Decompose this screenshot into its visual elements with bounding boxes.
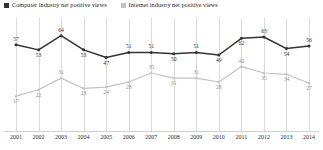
data-point-label: 17 bbox=[13, 99, 19, 105]
data-point bbox=[285, 73, 287, 75]
x-axis-tick-label: 2001 bbox=[10, 134, 22, 140]
data-point-label: 63 bbox=[261, 29, 267, 35]
data-point bbox=[150, 72, 152, 74]
series-line bbox=[16, 36, 309, 58]
data-point-label: 50 bbox=[171, 57, 177, 63]
data-point-label: 31 bbox=[58, 70, 64, 76]
x-axis-ticks: 2001200220032004200520062007200820092010… bbox=[4, 134, 319, 146]
data-point-label: 49 bbox=[216, 58, 222, 64]
data-point-label: 62 bbox=[239, 41, 245, 47]
x-axis-tick-label: 2002 bbox=[33, 134, 45, 140]
data-point bbox=[37, 89, 39, 91]
x-axis-tick-label: 2004 bbox=[78, 134, 90, 140]
x-axis-tick-label: 2003 bbox=[55, 134, 67, 140]
x-axis-tick-label: 2014 bbox=[303, 134, 315, 140]
data-point-label: 47 bbox=[103, 61, 109, 67]
legend-swatch-icon bbox=[121, 3, 126, 8]
chart-container: Computer industry net positive views Int… bbox=[0, 0, 323, 150]
data-point-label: 34 bbox=[284, 77, 290, 83]
x-axis-tick-label: 2008 bbox=[168, 134, 180, 140]
data-point bbox=[262, 36, 265, 39]
x-axis-tick-label: 2012 bbox=[258, 134, 270, 140]
data-point-label: 35 bbox=[261, 76, 267, 82]
legend-swatch-icon bbox=[4, 3, 9, 8]
x-axis-tick-label: 2010 bbox=[213, 134, 225, 140]
data-point-label: 64 bbox=[58, 28, 64, 34]
data-point bbox=[263, 72, 265, 74]
data-point-label: 31 bbox=[194, 70, 200, 76]
plot-area: 5753645347515150514962635456172231232428… bbox=[4, 18, 319, 132]
x-axis-tick-label: 2013 bbox=[280, 134, 292, 140]
data-point bbox=[240, 65, 242, 67]
data-point-label: 28 bbox=[126, 85, 132, 91]
data-point bbox=[127, 81, 129, 83]
data-point bbox=[150, 51, 153, 54]
x-axis-tick-label: 2007 bbox=[145, 134, 157, 140]
x-axis-tick-label: 2009 bbox=[190, 134, 202, 140]
data-point-label: 54 bbox=[284, 52, 290, 58]
data-point-label: 53 bbox=[36, 53, 42, 59]
chart-legend: Computer industry net positive views Int… bbox=[4, 2, 218, 8]
legend-label-computer: Computer industry net positive views bbox=[12, 2, 107, 8]
data-point bbox=[127, 51, 130, 54]
legend-label-internet: Internet industry net positive views bbox=[129, 2, 218, 8]
data-point bbox=[308, 45, 311, 48]
data-point bbox=[218, 81, 220, 83]
data-point-label: 57 bbox=[13, 37, 19, 43]
data-point-label: 28 bbox=[216, 85, 222, 91]
data-point bbox=[15, 43, 18, 46]
x-axis-tick-label: 2005 bbox=[100, 134, 112, 140]
data-point-label: 31 bbox=[171, 81, 177, 87]
data-point-label: 56 bbox=[306, 38, 312, 44]
legend-item-computer: Computer industry net positive views bbox=[4, 2, 107, 8]
x-axis-tick-label: 2011 bbox=[235, 134, 247, 140]
data-point bbox=[195, 51, 198, 54]
data-point-label: 35 bbox=[148, 65, 154, 71]
data-point-label: 22 bbox=[36, 93, 42, 99]
data-point-label: 51 bbox=[194, 44, 200, 50]
legend-item-internet: Internet industry net positive views bbox=[121, 2, 218, 8]
data-point bbox=[173, 77, 175, 79]
series-lines bbox=[4, 18, 319, 132]
data-point-label: 51 bbox=[148, 44, 154, 50]
data-point-label: 51 bbox=[126, 44, 132, 50]
data-point-label: 40 bbox=[239, 59, 245, 65]
data-point bbox=[60, 34, 63, 37]
data-point bbox=[82, 87, 84, 89]
data-point bbox=[15, 95, 17, 97]
data-point bbox=[60, 77, 62, 79]
data-point-label: 27 bbox=[306, 86, 312, 92]
data-point-label: 24 bbox=[103, 90, 109, 96]
data-point-label: 23 bbox=[81, 91, 87, 97]
data-point bbox=[105, 86, 107, 88]
data-point-label: 53 bbox=[81, 53, 87, 59]
x-axis-tick-label: 2006 bbox=[123, 134, 135, 140]
data-point bbox=[308, 82, 310, 84]
data-point bbox=[195, 77, 197, 79]
